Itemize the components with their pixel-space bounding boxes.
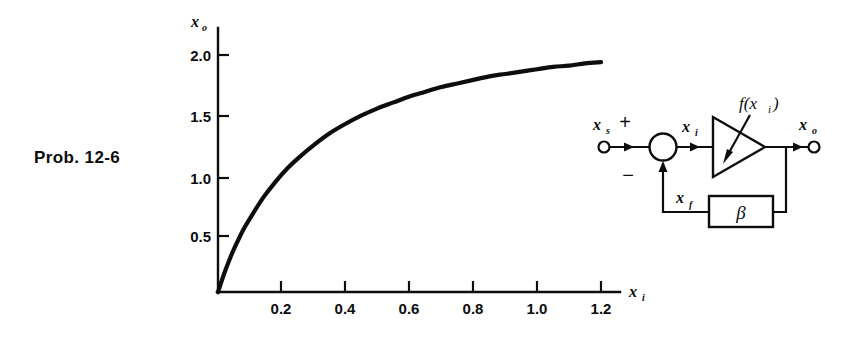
y-tick-label-2: 1.5 (190, 108, 211, 125)
feedback-arrowhead-icon (659, 161, 668, 172)
feedback-tap-wire (773, 147, 786, 212)
x-tick-label-3: 0.8 (463, 300, 484, 317)
output-signal-label: x o (798, 116, 817, 136)
output-terminal[interactable] (809, 142, 820, 153)
output-signal-label-sub: o (812, 125, 817, 136)
x-axis-ticks (281, 281, 601, 292)
figure-plate: Prob. 12-6 0.5 1.0 1.5 2.0 x o (0, 0, 856, 339)
summing-junction[interactable] (650, 134, 677, 161)
y-axis-label-sub: o (202, 22, 207, 33)
input-terminal[interactable] (599, 142, 610, 153)
mixer-arrowhead-icon (690, 143, 700, 152)
y-axis-ticks (218, 55, 229, 236)
x-axis-label-base: x (628, 283, 637, 300)
data-curve (218, 62, 601, 292)
input-signal-label-sub: s (605, 125, 610, 136)
output-signal-label-base: x (798, 116, 807, 133)
y-tick-label-0: 0.5 (190, 228, 211, 245)
x-tick-label-1: 0.4 (335, 300, 357, 317)
plot-area: 0.5 1.0 1.5 2.0 x o 0.2 0.4 0.6 0.8 (190, 13, 645, 317)
y-tick-label-1: 1.0 (190, 170, 211, 187)
mixer-output-label-base: x (681, 118, 690, 135)
plus-sign-label: + (619, 111, 631, 133)
feedback-return-wire (663, 163, 709, 212)
x-tick-label-0: 0.2 (271, 300, 292, 317)
amplifier-triangle[interactable] (713, 117, 765, 177)
x-tick-label-2: 0.6 (399, 300, 420, 317)
feedback-signal-label-sub: f (689, 199, 694, 210)
amplifier-function-label-sub: i (768, 103, 771, 115)
amplifier-function-label-base: f(x (739, 94, 757, 113)
minus-sign-label: − (622, 164, 634, 186)
input-arrowhead-icon (624, 143, 634, 152)
input-signal-label: x s (592, 116, 610, 136)
figure-graphics: 0.5 1.0 1.5 2.0 x o 0.2 0.4 0.6 0.8 (0, 0, 856, 339)
y-axis-label-base: x (190, 13, 199, 30)
block-diagram: x s + − x i f(x (592, 94, 820, 227)
x-axis-label: x i (628, 283, 645, 303)
amplifier-function-label: f(x i ) (739, 94, 779, 115)
amplifier-function-label-tail: ) (772, 94, 779, 113)
feedback-block-label: β (735, 202, 746, 223)
mixer-output-label: x i (681, 118, 698, 138)
y-axis-label: x o (190, 13, 207, 33)
x-axis-label-sub: i (642, 292, 645, 303)
feedback-signal-label-base: x (675, 189, 684, 206)
x-tick-label-4: 1.0 (527, 300, 548, 317)
output-arrowhead-icon (793, 143, 803, 152)
feedback-signal-label: x f (675, 189, 694, 210)
y-tick-label-3: 2.0 (190, 47, 211, 64)
mixer-output-label-sub: i (695, 127, 698, 138)
input-signal-label-base: x (592, 116, 601, 133)
x-tick-label-5: 1.2 (591, 300, 612, 317)
